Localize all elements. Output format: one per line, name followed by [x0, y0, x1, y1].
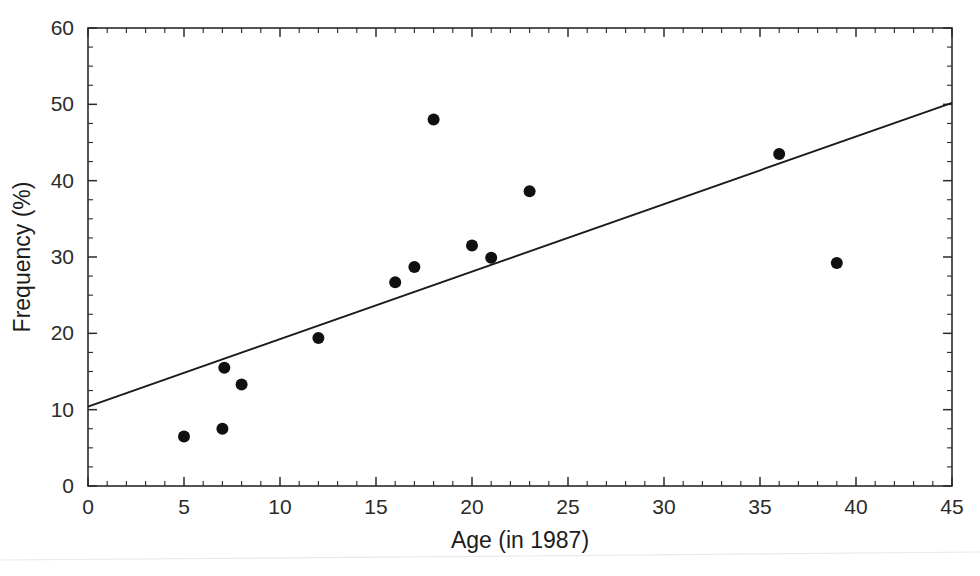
- data-point: [408, 261, 420, 273]
- regression-trend-line: [88, 103, 952, 407]
- data-point: [831, 257, 843, 269]
- y-axis-tick-labels: 0102030405060: [51, 16, 74, 497]
- y-tick-label: 40: [51, 169, 74, 192]
- chart-page: 051015202530354045 0102030405060 Age (in…: [0, 0, 980, 576]
- y-tick-label: 0: [62, 474, 74, 497]
- x-axis-major-ticks: [88, 28, 952, 486]
- data-point: [312, 332, 324, 344]
- x-tick-label: 40: [844, 495, 867, 518]
- x-tick-label: 45: [940, 495, 963, 518]
- data-point: [236, 378, 248, 390]
- data-point: [524, 185, 536, 197]
- x-tick-label: 25: [556, 495, 579, 518]
- plot-frame: [88, 28, 952, 486]
- data-point: [178, 430, 190, 442]
- data-point: [773, 148, 785, 160]
- x-axis-tick-labels: 051015202530354045: [82, 495, 964, 518]
- y-tick-label: 50: [51, 92, 74, 115]
- scatter-data-points: [178, 114, 843, 443]
- x-tick-label: 10: [268, 495, 291, 518]
- y-axis-major-ticks: [88, 28, 952, 486]
- trend-line-group: [88, 103, 952, 407]
- scan-edge-artifact: [0, 552, 980, 560]
- y-tick-label: 10: [51, 398, 74, 421]
- x-tick-label: 35: [748, 495, 771, 518]
- data-point: [466, 240, 478, 252]
- x-tick-label: 15: [364, 495, 387, 518]
- x-tick-label: 0: [82, 495, 94, 518]
- y-tick-label: 60: [51, 16, 74, 39]
- x-axis-minor-ticks: [107, 28, 933, 486]
- y-axis-title: Frequency (%): [9, 182, 35, 333]
- data-point: [428, 114, 440, 126]
- data-point: [485, 252, 497, 264]
- data-point: [389, 276, 401, 288]
- x-tick-label: 20: [460, 495, 483, 518]
- y-tick-label: 30: [51, 245, 74, 268]
- data-point: [216, 423, 228, 435]
- plot-frame-box: [88, 28, 952, 486]
- data-point: [218, 362, 230, 374]
- x-axis-title: Age (in 1987): [451, 527, 589, 553]
- scatter-plot-figure: 051015202530354045 0102030405060 Age (in…: [0, 0, 980, 576]
- x-tick-label: 5: [178, 495, 190, 518]
- x-tick-label: 30: [652, 495, 675, 518]
- y-axis-minor-ticks: [88, 47, 952, 467]
- y-tick-label: 20: [51, 321, 74, 344]
